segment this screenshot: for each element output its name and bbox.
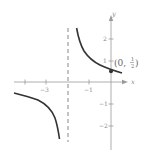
svg-text:1: 1 — [131, 56, 134, 62]
y-tick-label-neg2: −2 — [99, 122, 108, 129]
svg-text:2: 2 — [131, 63, 134, 69]
y-axis-label: y — [111, 10, 116, 18]
x-axis-label: x — [131, 78, 135, 86]
x-axis-arrow-icon — [122, 80, 128, 84]
x-tick-label-neg1: −1 — [84, 86, 93, 93]
function-graph: y x −3 −1 2 1 −1 −2 (0, 1 2 ) — [0, 0, 144, 150]
y-tick-label-2: 2 — [103, 35, 107, 42]
y-intercept-point — [109, 69, 113, 73]
svg-text:(0,: (0, — [114, 58, 126, 68]
point-label: (0, 1 2 ) — [114, 56, 139, 69]
y-tick-label-1: 1 — [103, 57, 107, 64]
svg-text:): ) — [135, 58, 139, 68]
curve-left-branch — [14, 93, 60, 139]
y-tick-label-neg1: −1 — [99, 100, 108, 107]
x-tick-label-neg3: −3 — [40, 86, 49, 93]
